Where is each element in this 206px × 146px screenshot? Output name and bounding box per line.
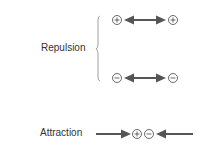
double-arrow-icon bbox=[124, 74, 166, 83]
minus-charge-icon bbox=[145, 130, 154, 139]
plus-charge-icon bbox=[113, 16, 122, 25]
plus-charge-icon bbox=[169, 16, 178, 25]
minus-charge-icon bbox=[113, 74, 122, 83]
right-arrow-icon bbox=[96, 130, 131, 139]
brace-icon bbox=[96, 16, 100, 81]
double-arrow-icon bbox=[124, 16, 166, 25]
plus-charge-icon bbox=[133, 130, 142, 139]
force-diagram bbox=[0, 0, 206, 146]
minus-charge-icon bbox=[169, 74, 178, 83]
left-arrow-icon bbox=[156, 130, 193, 139]
